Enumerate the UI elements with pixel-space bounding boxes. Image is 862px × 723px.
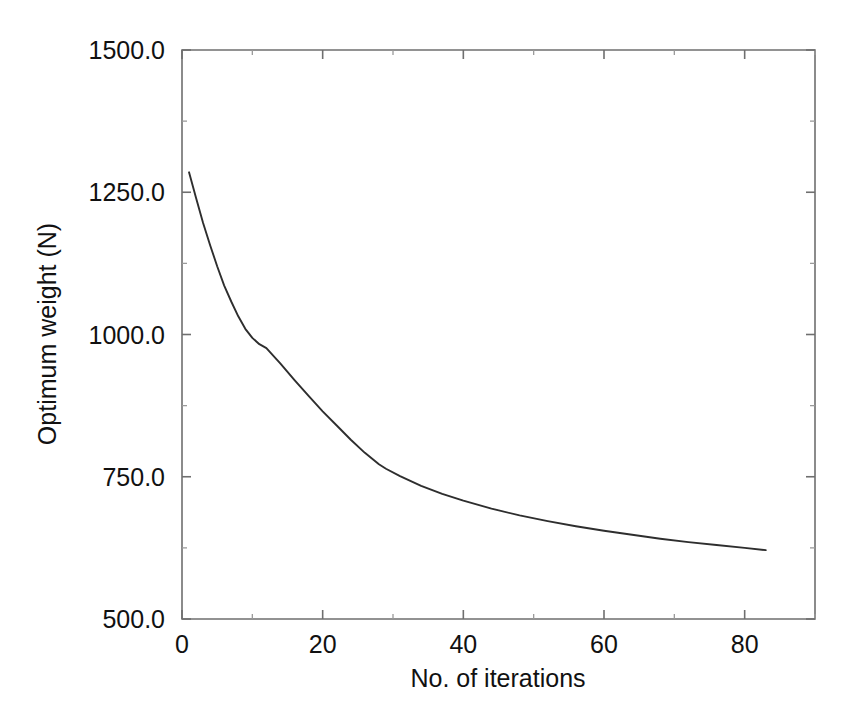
y-tick-label: 1250.0 [89, 178, 165, 206]
y-tick-label: 500.0 [102, 605, 165, 633]
line-chart-plot: 020406080 500.0750.01000.01250.01500.0 N… [0, 0, 862, 723]
y-tick-label: 1500.0 [89, 36, 165, 64]
y-axis-title: Optimum weight (N) [33, 223, 61, 445]
x-axis-title: No. of iterations [410, 664, 585, 692]
x-tick-label: 20 [309, 630, 337, 658]
x-tick-label: 40 [449, 630, 477, 658]
x-tick-label: 0 [175, 630, 189, 658]
y-tick-label: 750.0 [102, 463, 165, 491]
x-tick-label: 60 [590, 630, 618, 658]
chart-figure: 020406080 500.0750.01000.01250.01500.0 N… [0, 0, 862, 723]
y-tick-label: 1000.0 [89, 321, 165, 349]
x-tick-label: 80 [731, 630, 759, 658]
